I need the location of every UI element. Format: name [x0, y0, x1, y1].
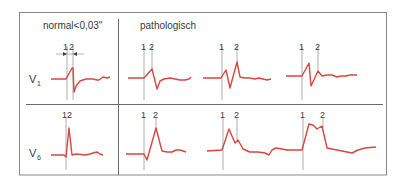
svg-text:2: 2 — [234, 42, 239, 52]
lead-label-v6: V 6 — [29, 147, 41, 161]
svg-text:1: 1 — [219, 42, 224, 52]
svg-text:V: V — [29, 73, 37, 85]
svg-text:1: 1 — [141, 110, 146, 120]
lead-label-v1: V 1 — [29, 73, 41, 87]
ecg-diagram: normal<0,03" pathologisch V 1 V 6 1 2 1 … — [0, 0, 404, 188]
svg-text:2: 2 — [153, 110, 158, 120]
waveform — [51, 128, 103, 157]
panel-v6-path-3: 1 2 — [286, 110, 376, 170]
waveform — [128, 69, 191, 89]
svg-text:6: 6 — [37, 154, 41, 161]
marker-label-12: 12 — [62, 110, 72, 120]
svg-text:2: 2 — [320, 110, 325, 120]
svg-text:1: 1 — [37, 80, 41, 87]
panel-v6-path-2: 1 2 — [207, 110, 287, 170]
svg-text:2: 2 — [315, 42, 320, 52]
waveform — [203, 62, 271, 88]
svg-text:2: 2 — [149, 42, 154, 52]
waveform — [51, 68, 110, 92]
svg-text:1: 1 — [299, 42, 304, 52]
outer-frame — [20, 13, 387, 176]
svg-text:V: V — [29, 147, 37, 159]
svg-text:1: 1 — [141, 42, 146, 52]
marker-label-2: 2 — [69, 42, 74, 52]
waveform — [286, 63, 357, 86]
panel-v6-path-1: 1 2 — [126, 110, 186, 170]
waveform — [207, 129, 287, 155]
normal-header: normal<0,03" — [43, 20, 103, 31]
svg-text:1: 1 — [300, 110, 305, 120]
svg-text:1: 1 — [220, 110, 225, 120]
arrow-left-icon — [73, 52, 77, 56]
panel-v1-path-1: 1 2 — [128, 42, 191, 100]
svg-text:2: 2 — [234, 110, 239, 120]
panel-v1-path-3: 1 2 — [286, 42, 357, 100]
marker-label-1: 1 — [63, 42, 68, 52]
arrow-right-icon — [63, 52, 67, 56]
waveform — [126, 128, 186, 160]
panel-v1-path-2: 1 2 — [203, 42, 271, 100]
panel-v1-normal: 1 2 — [51, 42, 110, 100]
panel-v6-normal: 12 — [51, 110, 103, 170]
waveform — [286, 124, 376, 153]
pathologic-header: pathologisch — [140, 20, 196, 31]
